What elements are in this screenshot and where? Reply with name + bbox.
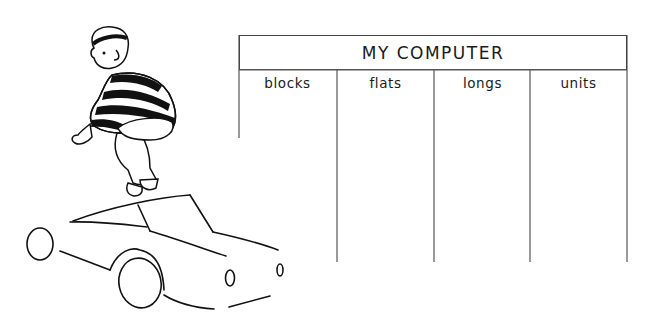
column-header-blocks: blocks: [239, 75, 336, 91]
column-header-flats: flats: [337, 75, 434, 91]
table-title: MY COMPUTER: [239, 35, 627, 70]
child-figure: [72, 27, 175, 196]
column-header-longs: longs: [434, 75, 531, 91]
my-computer-table: MY COMPUTER blocks flats longs units: [239, 35, 627, 262]
column-header-units: units: [530, 75, 627, 91]
